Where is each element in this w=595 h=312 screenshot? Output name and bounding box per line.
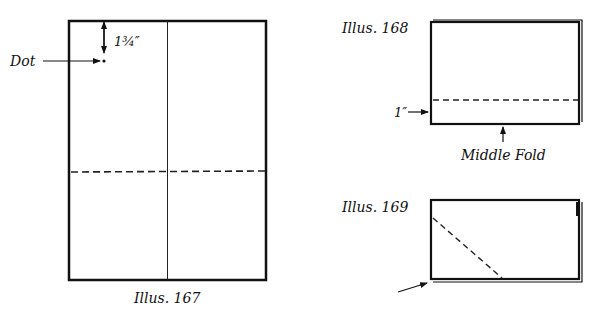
caption-167: Illus. 167 [133,290,200,306]
corner-pointer-arrow [398,283,427,292]
illus-168: 1″ Middle Fold Illus. 168 [341,20,582,163]
caption-169: Illus. 169 [341,199,408,215]
edge-thickness-mark [576,202,579,216]
folding-diagram: Dot 1¾″ Illus. 167 1″ Middle Fold Illus.… [0,0,595,312]
dot-marker [102,59,105,62]
illus-169: Illus. 169 [341,199,582,292]
folded-sheet [431,22,579,124]
measure-label: 1″ [394,105,407,120]
caption-168: Illus. 168 [341,20,408,36]
illus-167: Dot 1¾″ Illus. 167 [9,21,266,306]
measure-label: 1¾″ [114,34,140,49]
dot-label: Dot [9,53,36,69]
fold-label: Middle Fold [460,147,546,163]
folded-sheet [431,200,579,279]
